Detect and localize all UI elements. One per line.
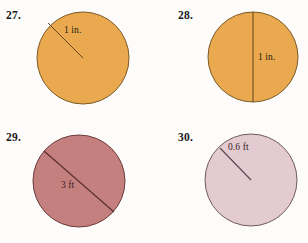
circle-figure-30 (154, 122, 308, 243)
problem-29: 29. 3 ft (0, 122, 154, 243)
circle-figure-29 (0, 122, 154, 243)
problem-27: 27. 1 in. (0, 0, 154, 122)
problem-30: 30. 0.6 ft (154, 122, 308, 243)
measure-label-28: 1 in. (258, 52, 275, 62)
worksheet-page: 27. 1 in. 28. 1 in. 29. 3 ft (0, 0, 308, 243)
problem-28: 28. 1 in. (154, 0, 308, 122)
circle-figure-28 (154, 0, 308, 122)
measure-label-27: 1 in. (64, 25, 81, 35)
measure-label-29: 3 ft (61, 180, 74, 190)
circle-figure-27 (0, 0, 154, 122)
measure-label-30: 0.6 ft (228, 142, 249, 152)
